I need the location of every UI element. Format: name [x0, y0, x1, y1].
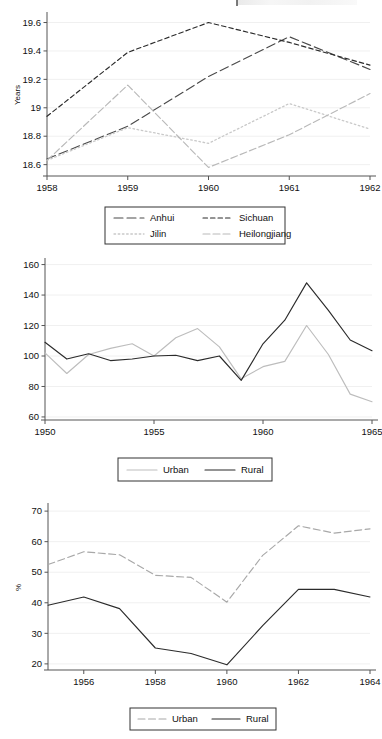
x-axis: 19581959196019611962 [36, 176, 380, 193]
x-tick-label: 1955 [143, 426, 164, 437]
x-tick-label: 1961 [279, 182, 300, 193]
x-tick-label: 1960 [198, 182, 219, 193]
y-axis: 6080100120140160 [23, 259, 45, 422]
x-tick-label: 1964 [359, 676, 380, 687]
legend-label-rural: Rural [246, 713, 269, 724]
x-tick-label: 1960 [252, 426, 273, 437]
y-tick-label: 18.6 [23, 159, 42, 170]
x-tick-label: 1956 [73, 676, 94, 687]
x-axis: 19561958196019621964 [73, 670, 380, 687]
y-tick-label: 60 [31, 536, 42, 547]
chart-page: 18.618.81919.219.419.6Years1958195919601… [0, 0, 382, 739]
y-axis: 18.618.81919.219.419.6 [23, 17, 48, 170]
legend: UrbanRural [130, 708, 276, 730]
chart-3-block: 203040506070%19561958196019621964UrbanRu… [0, 490, 382, 739]
series-line-heilongjiang [47, 85, 370, 167]
y-tick-label: 140 [23, 289, 39, 300]
y-tick-label: 100 [23, 350, 39, 361]
series-line-jilin [47, 104, 370, 161]
legend: UrbanRural [118, 458, 272, 481]
series-line-urban [45, 326, 372, 402]
legend-label-jilin: Jilin [150, 228, 166, 239]
y-tick-label: 40 [31, 597, 42, 608]
y-tick-label: 70 [31, 505, 42, 516]
x-tick-label: 1962 [359, 182, 380, 193]
y-tick-label: 19.6 [23, 17, 42, 28]
y-axis: 203040506070 [31, 505, 48, 669]
x-tick-label: 1958 [36, 182, 57, 193]
gridlines [48, 511, 370, 664]
series-line-rural [45, 283, 372, 381]
x-tick-label: 1950 [34, 426, 55, 437]
series-line-rural [48, 589, 370, 664]
y-tick-label: 160 [23, 259, 39, 270]
x-tick-label: 1958 [145, 676, 166, 687]
y-tick-label: 30 [31, 628, 42, 639]
y-tick-label: 60 [28, 411, 39, 422]
x-tick-label: 1965 [361, 426, 382, 437]
chart-2-urban-rural-index: 60801001201401601950195519601965UrbanRur… [0, 250, 382, 490]
y-tick-label: 120 [23, 320, 39, 331]
chart-1-provincial-years: 18.618.81919.219.419.6Years1958195919601… [0, 0, 382, 250]
legend-label-urban: Urban [163, 464, 189, 475]
legend-label-urban: Urban [172, 713, 198, 724]
y-tick-label: 19.4 [23, 45, 42, 56]
chart-2-block: 60801001201401601950195519601965UrbanRur… [0, 250, 382, 490]
x-tick-label: 1962 [288, 676, 309, 687]
x-tick-label: 1959 [117, 182, 138, 193]
x-axis: 1950195519601965 [34, 420, 382, 437]
series-line-urban [48, 526, 370, 602]
y-tick-label: 19 [30, 102, 41, 113]
legend-label-sichuan: Sichuan [239, 212, 273, 223]
y-tick-label: 18.8 [23, 130, 42, 141]
chart-1-block: 18.618.81919.219.419.6Years1958195919601… [0, 0, 382, 250]
legend-label-anhui: Anhui [150, 212, 174, 223]
gridlines [45, 265, 372, 417]
legend: AnhuiSichuanJilinHeilongjiang [105, 207, 291, 244]
x-tick-label: 1960 [216, 676, 237, 687]
y-tick-label: 19.2 [23, 74, 42, 85]
legend-label-heilongjiang: Heilongjiang [239, 228, 291, 239]
y-axis-title: Years [13, 85, 22, 105]
series-line-sichuan [47, 23, 370, 117]
y-tick-label: 20 [31, 658, 42, 669]
legend-label-rural: Rural [241, 464, 264, 475]
y-axis-title: % [14, 584, 23, 591]
chart-3-urban-rural-percent: 203040506070%19561958196019621964UrbanRu… [0, 490, 382, 739]
y-tick-label: 50 [31, 566, 42, 577]
y-tick-label: 80 [28, 381, 39, 392]
